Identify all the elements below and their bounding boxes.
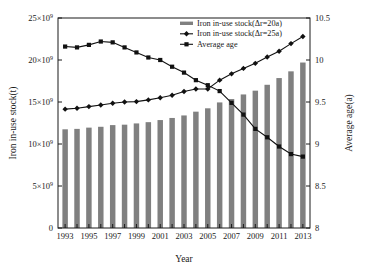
bar-1996 — [98, 127, 103, 228]
y2-tick-label: 8 — [315, 223, 319, 233]
marker-square-2001 — [158, 58, 162, 62]
marker-square-2007 — [229, 101, 233, 105]
y-axis-right-title: Average age(a) — [344, 94, 355, 152]
x-tick-label: 1995 — [80, 231, 97, 241]
bar-2004 — [193, 112, 198, 228]
bar-1994 — [74, 129, 79, 228]
bar-1995 — [86, 128, 91, 228]
legend-square-marker — [184, 42, 188, 46]
x-tick-label: 2003 — [176, 231, 193, 241]
x-tick-label: 1997 — [104, 231, 121, 241]
x-tick-label: 2013 — [294, 231, 311, 241]
bar-2013 — [300, 63, 305, 228]
legend-label: Average age — [197, 40, 238, 49]
y2-tick-label: 10 — [315, 55, 324, 65]
bar-1993 — [62, 129, 67, 228]
marker-square-1993 — [63, 44, 67, 48]
marker-square-1998 — [122, 45, 126, 49]
bar-2001 — [157, 120, 162, 228]
y2-tick-label: 9.5 — [315, 97, 326, 107]
marker-square-2011 — [277, 144, 281, 148]
marker-square-2009 — [253, 127, 257, 131]
y-tick-label: 20×109 — [28, 55, 53, 65]
marker-square-2000 — [146, 55, 150, 59]
bar-1997 — [110, 125, 115, 228]
marker-square-1994 — [75, 45, 79, 49]
marker-square-2005 — [206, 83, 210, 87]
y2-tick-label: 9 — [315, 139, 319, 149]
x-axis-title: Year — [175, 254, 193, 264]
bar-2010 — [264, 85, 269, 228]
x-tick-label: 2001 — [152, 231, 169, 241]
bar-1998 — [122, 125, 127, 228]
marker-square-2008 — [241, 113, 245, 117]
marker-square-2006 — [218, 89, 222, 93]
marker-square-2012 — [289, 152, 293, 156]
legend-label: Iron in-use stock(Δr=25a) — [197, 29, 282, 38]
y2-tick-label: 10.5 — [315, 13, 330, 23]
marker-square-1997 — [111, 40, 115, 44]
bar-2011 — [276, 78, 281, 228]
marker-square-1996 — [99, 39, 103, 43]
x-tick-label: 2005 — [199, 231, 216, 241]
y-tick-label: 10×109 — [28, 139, 53, 149]
legend-label: Iron in-use stock(Δr=20a) — [197, 19, 282, 28]
y-tick-label: 5×109 — [32, 181, 53, 191]
marker-square-2003 — [182, 71, 186, 75]
bar-2007 — [229, 99, 234, 228]
y-axis-left-title: Iron in-use stock(t) — [8, 87, 19, 160]
y-tick-label: 15×109 — [28, 97, 53, 107]
bar-1999 — [134, 123, 139, 228]
x-tick-label: 1993 — [57, 231, 74, 241]
y-tick-label: 25×109 — [28, 13, 53, 23]
bar-2000 — [146, 122, 151, 228]
bar-2012 — [288, 71, 293, 228]
bar-2006 — [217, 102, 222, 228]
y-tick-label: 0 — [49, 223, 53, 233]
y2-tick-label: 8.5 — [315, 181, 326, 191]
chart-container: 1993199519971999200120032005200720092011… — [0, 0, 366, 270]
bar-2009 — [253, 91, 258, 228]
x-tick-label: 2011 — [271, 231, 288, 241]
legend-bar-swatch — [180, 22, 193, 25]
bar-2003 — [181, 115, 186, 228]
bar-2005 — [205, 108, 210, 228]
bar-2002 — [169, 118, 174, 228]
marker-square-1995 — [87, 43, 91, 47]
marker-square-2002 — [170, 65, 174, 69]
iron-in-use-stock-chart: 1993199519971999200120032005200720092011… — [0, 0, 366, 270]
x-tick-label: 2009 — [247, 231, 264, 241]
x-tick-label: 1999 — [128, 231, 145, 241]
marker-square-1999 — [134, 50, 138, 54]
x-tick-label: 2007 — [223, 231, 240, 241]
marker-square-2013 — [301, 155, 305, 159]
marker-square-2010 — [265, 135, 269, 139]
marker-square-2004 — [194, 78, 198, 82]
